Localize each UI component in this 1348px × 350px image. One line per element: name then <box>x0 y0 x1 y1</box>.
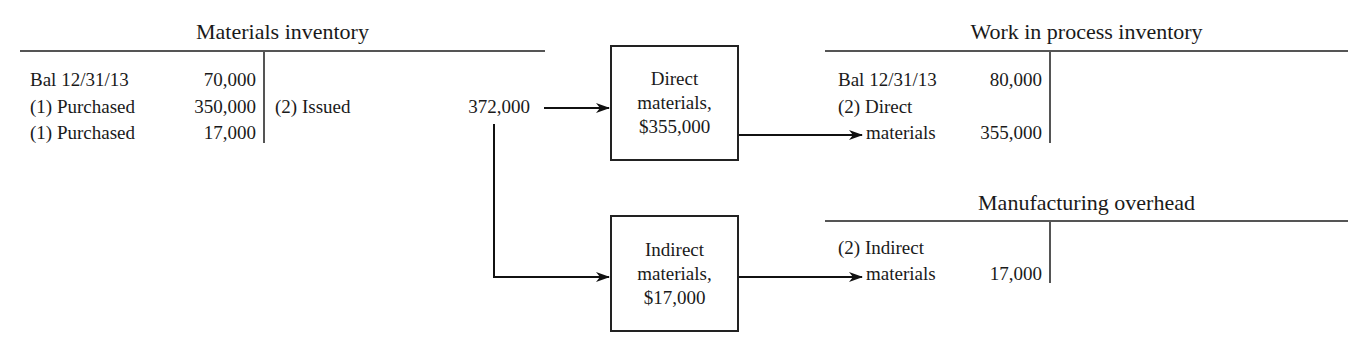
flow-arrows <box>0 0 1348 350</box>
arrow-issued-to-indirect <box>494 124 609 277</box>
